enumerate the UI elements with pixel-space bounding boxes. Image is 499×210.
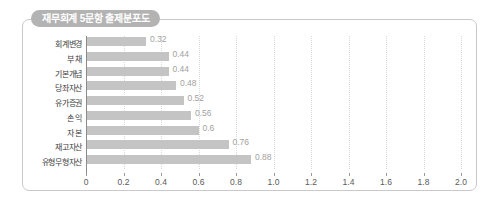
bar-row: 0.76 <box>86 139 461 154</box>
axis-tick-mark <box>349 173 350 176</box>
axis-tick-mark <box>161 173 162 176</box>
category-label: 손 익 <box>22 112 82 123</box>
bar-value-label: 0.52 <box>184 93 205 103</box>
axis-tick-mark <box>386 173 387 176</box>
axis-tick-mark <box>461 173 462 176</box>
axis-tick-label: 0.6 <box>193 177 205 187</box>
bar-value-label: 0.76 <box>229 137 250 147</box>
bar-row: 0.44 <box>86 51 461 66</box>
axis-tick-label: 2.0 <box>455 177 467 187</box>
bar-value-label: 0.44 <box>169 64 190 74</box>
bar-value-label: 0.44 <box>169 49 190 59</box>
bar-row: 0.32 <box>86 36 461 51</box>
bar <box>86 140 229 149</box>
axis-tick-label: 1.0 <box>268 177 280 187</box>
bar-value-label: 0.6 <box>199 123 215 133</box>
axis-tick-mark <box>311 173 312 176</box>
axis-tick-label: 1.4 <box>343 177 355 187</box>
axis-tick-mark <box>86 173 87 176</box>
bar <box>86 67 169 76</box>
bar-value-label: 0.56 <box>191 108 212 118</box>
axis-tick-label: 1.8 <box>418 177 430 187</box>
bar-row: 0.44 <box>86 66 461 81</box>
category-label: 유형무형자산 <box>22 156 82 167</box>
category-label: 부 채 <box>22 53 82 64</box>
bar-row: 0.52 <box>86 95 461 110</box>
bar <box>86 126 199 135</box>
panel-title: 재무회계 5문항 출제분포도 <box>31 10 160 27</box>
gridline <box>461 36 462 169</box>
bar-row: 0.88 <box>86 154 461 169</box>
bar-row: 0.6 <box>86 125 461 140</box>
bar-value-label: 0.88 <box>251 152 272 162</box>
bar <box>86 111 191 120</box>
axis-tick-mark <box>274 173 275 176</box>
category-label: 유가증권 <box>22 97 82 108</box>
axis-tick-mark <box>424 173 425 176</box>
plot-area: 0.320.440.440.480.520.560.60.760.88 <box>86 36 461 169</box>
bar <box>86 96 184 105</box>
bar <box>86 37 146 46</box>
chart-screenshot: 재무회계 5문항 출제분포도 회계변경부 채기본개념당좌자산유가증권손 익자 본… <box>0 0 499 210</box>
axis-tick-mark <box>124 173 125 176</box>
bar-chart: 회계변경부 채기본개념당좌자산유가증권손 익자 본재고자산유형무형자산 0.32… <box>22 19 477 191</box>
category-label: 기본개념 <box>22 68 82 79</box>
bar-value-label: 0.32 <box>146 34 167 44</box>
axis-tick-label: 1.2 <box>305 177 317 187</box>
category-label: 당좌자산 <box>22 82 82 93</box>
axis-tick-mark <box>236 173 237 176</box>
axis-tick-label: 0.2 <box>118 177 130 187</box>
bar-value-label: 0.48 <box>176 78 197 88</box>
bar <box>86 81 176 90</box>
value-axis-ticks: 00.20.40.60.81.01.21.41.61.82.0 <box>86 173 461 189</box>
category-axis-labels: 회계변경부 채기본개념당좌자산유가증권손 익자 본재고자산유형무형자산 <box>22 36 82 169</box>
axis-tick-label: 1.6 <box>380 177 392 187</box>
axis-tick-label: 0 <box>84 177 89 187</box>
bar <box>86 52 169 61</box>
bar <box>86 155 251 164</box>
value-axis-line <box>86 36 87 173</box>
axis-tick-label: 0.4 <box>155 177 167 187</box>
bar-row: 0.56 <box>86 110 461 125</box>
category-label: 회계변경 <box>22 38 82 49</box>
category-label: 재고자산 <box>22 141 82 152</box>
axis-tick-mark <box>199 173 200 176</box>
axis-tick-label: 0.8 <box>230 177 242 187</box>
category-label: 자 본 <box>22 127 82 138</box>
bar-row: 0.48 <box>86 80 461 95</box>
